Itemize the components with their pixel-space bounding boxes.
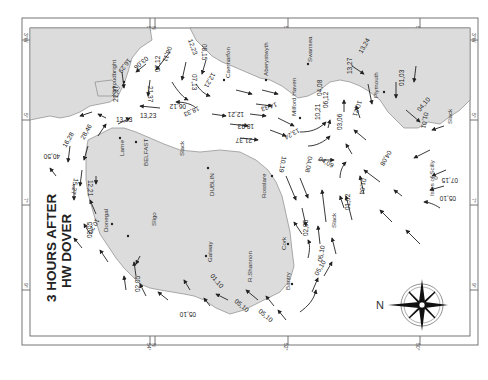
svg-text:7°: 7° bbox=[23, 198, 29, 203]
svg-text:01,04: 01,04 bbox=[358, 178, 368, 196]
svg-text:10,21: 10,21 bbox=[351, 100, 363, 118]
label-sligo: Sligo bbox=[150, 212, 157, 226]
svg-text:07,13: 07,13 bbox=[191, 74, 198, 91]
svg-text:02,05: 02,05 bbox=[134, 275, 141, 292]
label-isles-of-scilly: Isles of Scilly bbox=[428, 159, 435, 196]
label-cork: Cork bbox=[280, 236, 287, 250]
label-dublin: DUBLIN bbox=[208, 173, 215, 196]
svg-text:04,08: 04,08 bbox=[304, 156, 314, 174]
land-scotland bbox=[30, 28, 152, 120]
tidal-stream-map: 54° N 52° 50° 54° N 52° 50° 3°W 5° 7° 9°… bbox=[0, 0, 488, 380]
svg-text:Slack: Slack bbox=[330, 212, 337, 228]
svg-text:3°W: 3°W bbox=[471, 33, 477, 43]
svg-text:04,08: 04,08 bbox=[316, 79, 323, 96]
svg-text:01,03: 01,03 bbox=[398, 69, 405, 86]
svg-text:40,50: 40,50 bbox=[43, 153, 60, 160]
label-shannon: R.Shannon bbox=[246, 250, 253, 282]
svg-text:28,46: 28,46 bbox=[79, 123, 93, 141]
svg-text:16,28: 16,28 bbox=[61, 131, 75, 149]
compass-rose-icon: N bbox=[376, 279, 448, 331]
svg-text:05,10: 05,10 bbox=[439, 195, 456, 202]
label-donegal: Donegal bbox=[102, 209, 109, 232]
svg-text:9°: 9° bbox=[471, 283, 477, 288]
svg-text:12,21: 12,21 bbox=[227, 111, 244, 118]
label-belfast: BELFAST bbox=[142, 139, 149, 166]
svg-text:7°: 7° bbox=[471, 198, 477, 203]
svg-text:9°: 9° bbox=[23, 283, 29, 288]
svg-text:3°W: 3°W bbox=[23, 33, 29, 43]
svg-text:HW DOVER: HW DOVER bbox=[59, 213, 74, 288]
label-plymouth: Plymouth bbox=[372, 72, 379, 98]
svg-text:52°: 52° bbox=[283, 343, 289, 351]
svg-text:10,19: 10,19 bbox=[278, 156, 288, 174]
svg-text:13,27: 13,27 bbox=[346, 57, 353, 74]
svg-text:12,21: 12,21 bbox=[87, 180, 94, 197]
svg-text:03,06: 03,06 bbox=[133, 55, 150, 71]
map-title: 3 HOURS AFTER HW DOVER bbox=[44, 193, 74, 302]
label-caernarfon: Caernarfon bbox=[224, 46, 231, 78]
svg-text:Slack: Slack bbox=[446, 108, 453, 124]
svg-text:08,15: 08,15 bbox=[201, 44, 208, 61]
svg-text:Slack: Slack bbox=[178, 140, 185, 156]
svg-text:13,23: 13,23 bbox=[116, 116, 133, 123]
svg-text:3 HOURS AFTER: 3 HOURS AFTER bbox=[44, 193, 59, 302]
svg-text:15,27: 15,27 bbox=[70, 178, 80, 196]
svg-text:06,12: 06,12 bbox=[322, 91, 329, 108]
svg-text:07,12: 07,12 bbox=[154, 55, 161, 72]
svg-text:N: N bbox=[151, 26, 157, 30]
svg-text:07,15: 07,15 bbox=[441, 177, 458, 184]
label-bantry: Bantry bbox=[284, 271, 291, 290]
svg-text:21,37: 21,37 bbox=[112, 85, 119, 102]
label-rosslare: Rosslare bbox=[260, 173, 267, 198]
svg-text:50°: 50° bbox=[415, 343, 421, 351]
svg-text:13,23: 13,23 bbox=[140, 112, 157, 119]
svg-text:04,08: 04,08 bbox=[379, 150, 393, 168]
svg-text:5°: 5° bbox=[23, 113, 29, 118]
svg-text:05,10: 05,10 bbox=[257, 307, 274, 323]
svg-text:12,21: 12,21 bbox=[203, 72, 217, 90]
svg-text:06,11: 06,11 bbox=[162, 46, 174, 64]
svg-text:03,06: 03,06 bbox=[336, 113, 343, 130]
label-aberystwyth: Aberystwyth bbox=[262, 42, 269, 76]
svg-text:05,10: 05,10 bbox=[179, 311, 196, 318]
svg-text:01,02: 01,02 bbox=[344, 193, 351, 210]
svg-text:18,33: 18,33 bbox=[237, 123, 254, 130]
svg-text:06,12: 06,12 bbox=[169, 103, 186, 110]
svg-text:N: N bbox=[151, 343, 157, 347]
svg-text:5°: 5° bbox=[471, 113, 477, 118]
svg-text:10,21: 10,21 bbox=[314, 103, 321, 120]
svg-text:13,24: 13,24 bbox=[283, 127, 301, 141]
svg-text:04,09: 04,09 bbox=[318, 155, 336, 169]
label-larne: Larne bbox=[118, 140, 125, 156]
svg-text:02,05: 02,05 bbox=[302, 219, 309, 236]
label-milford-haven: Milford Haven bbox=[290, 77, 297, 116]
label-galway: Galway bbox=[206, 240, 213, 262]
compass-north-label: N bbox=[376, 299, 384, 311]
svg-text:14,33: 14,33 bbox=[260, 101, 278, 113]
svg-text:21,37: 21,37 bbox=[235, 137, 252, 144]
svg-text:21,37: 21,37 bbox=[147, 86, 154, 103]
label-swansea: Swansea bbox=[306, 36, 313, 62]
